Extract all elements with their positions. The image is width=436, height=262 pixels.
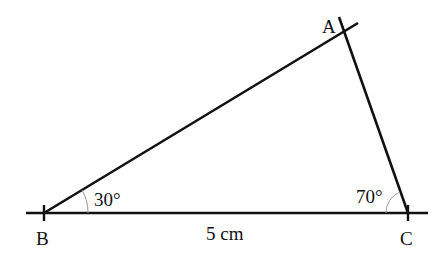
vertex-label-b: B xyxy=(36,228,49,249)
side-ab-line xyxy=(44,23,358,213)
angle-arc-b xyxy=(82,190,88,213)
vertex-label-c: C xyxy=(400,228,413,249)
side-length-bc: 5 cm xyxy=(206,223,244,244)
angle-arc-c xyxy=(386,192,400,213)
vertex-label-a: A xyxy=(322,16,336,37)
triangle-diagram: A B C 30° 70° 5 cm xyxy=(0,0,436,262)
angle-label-b: 30° xyxy=(94,189,121,210)
side-ac-line xyxy=(339,17,408,213)
angle-label-c: 70° xyxy=(356,186,383,207)
